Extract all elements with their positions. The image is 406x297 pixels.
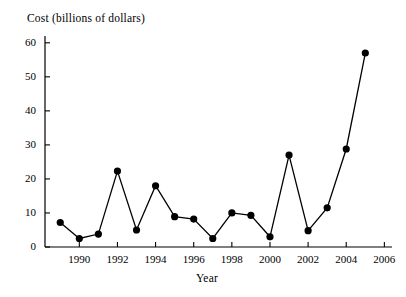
x-axis-tick-label: 1992 xyxy=(97,253,137,265)
data-point xyxy=(266,233,273,240)
y-axis-ticks xyxy=(45,43,50,247)
data-line xyxy=(60,53,365,238)
data-point xyxy=(133,226,140,233)
x-axis-tick-label: 2004 xyxy=(326,253,366,265)
x-axis-tick-label: 1994 xyxy=(136,253,176,265)
data-point xyxy=(95,230,102,237)
x-axis-tick-label: 2006 xyxy=(364,253,404,265)
y-axis-tick-label: 20 xyxy=(14,172,36,184)
y-axis-tick-label: 50 xyxy=(14,70,36,82)
data-point xyxy=(305,227,312,234)
y-axis-tick-label: 40 xyxy=(14,104,36,116)
data-point xyxy=(324,204,331,211)
data-point xyxy=(114,168,121,175)
y-axis-tick-label: 10 xyxy=(14,206,36,218)
data-point xyxy=(171,213,178,220)
data-point xyxy=(57,219,64,226)
data-point xyxy=(247,212,254,219)
y-axis-tick-label: 60 xyxy=(14,36,36,48)
data-point xyxy=(343,145,350,152)
x-axis-tick-label: 1990 xyxy=(59,253,99,265)
data-point xyxy=(362,49,369,56)
data-point xyxy=(152,182,159,189)
data-point xyxy=(228,209,235,216)
data-point xyxy=(285,152,292,159)
x-axis-tick-label: 1998 xyxy=(212,253,252,265)
x-axis-tick-label: 2000 xyxy=(250,253,290,265)
data-point xyxy=(209,235,216,242)
data-point xyxy=(76,235,83,242)
line-chart: Cost (billions of dollars) Year 01020304… xyxy=(0,0,406,297)
axis-lines xyxy=(45,36,392,247)
x-axis-ticks xyxy=(79,242,384,247)
x-axis-tick-label: 1996 xyxy=(174,253,214,265)
y-axis-tick-label: 30 xyxy=(14,138,36,150)
data-point xyxy=(190,215,197,222)
y-axis-tick-label: 0 xyxy=(14,240,36,252)
x-axis-tick-label: 2002 xyxy=(288,253,328,265)
